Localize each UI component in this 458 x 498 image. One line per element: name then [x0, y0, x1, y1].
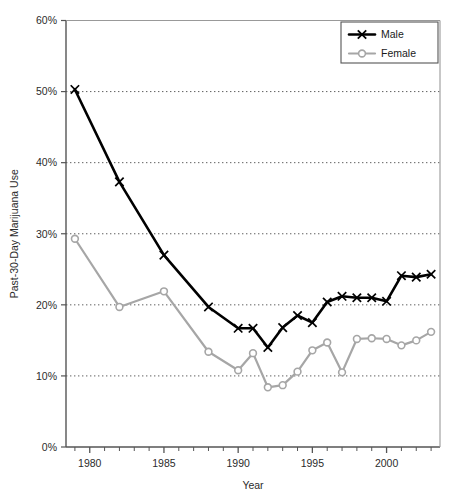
data-point-marker [205, 348, 212, 355]
chart-figure: 0%10%20%30%40%50%60%19801985199019952000… [0, 0, 458, 498]
x-tick-label: 1995 [301, 457, 325, 469]
cropped-title-fragment [60, 0, 380, 6]
legend-label-female: Female [381, 47, 416, 59]
y-axis-ticks: 0%10%20%30%40%50%60% [36, 14, 66, 453]
data-point-marker [294, 368, 301, 375]
series-female [72, 235, 435, 390]
data-point-marker [116, 304, 123, 311]
y-axis-title: Past-30-Day Marijuana Use [8, 169, 20, 298]
line-chart-svg: 0%10%20%30%40%50%60%19801985199019952000… [0, 0, 458, 498]
data-point-marker [250, 350, 257, 357]
y-tick-label: 40% [36, 156, 57, 168]
x-tick-label: 1985 [152, 457, 176, 469]
legend: MaleFemale [341, 22, 438, 63]
data-point-marker [398, 342, 405, 349]
y-tick-label: 30% [36, 228, 57, 240]
data-point-marker [324, 339, 331, 346]
legend-label-male: Male [381, 28, 404, 40]
y-tick-label: 0% [42, 441, 57, 453]
x-tick-label: 1990 [226, 457, 250, 469]
data-point-marker [161, 288, 168, 295]
x-axis-title: Year [242, 479, 264, 491]
data-point-marker [235, 367, 242, 374]
y-tick-label: 60% [36, 14, 57, 26]
data-point-marker [383, 336, 390, 343]
data-point-marker [428, 328, 435, 335]
data-point-marker [353, 336, 360, 343]
series-line [75, 239, 431, 388]
y-tick-label: 20% [36, 299, 57, 311]
data-point-marker [309, 347, 316, 354]
x-tick-label: 1980 [78, 457, 102, 469]
series-male [71, 85, 436, 351]
series-line [75, 89, 431, 347]
legend-marker-female [359, 50, 366, 57]
data-point-marker [264, 384, 271, 391]
y-tick-label: 10% [36, 370, 57, 382]
x-tick-label: 2000 [375, 457, 399, 469]
data-point-marker [413, 337, 420, 344]
gridlines [66, 21, 440, 376]
x-axis-ticks: 19801985199019952000 [75, 447, 431, 469]
data-point-marker [368, 335, 375, 342]
data-point-marker [279, 382, 286, 389]
y-tick-label: 50% [36, 85, 57, 97]
data-point-marker [339, 369, 346, 376]
data-point-marker [72, 235, 79, 242]
